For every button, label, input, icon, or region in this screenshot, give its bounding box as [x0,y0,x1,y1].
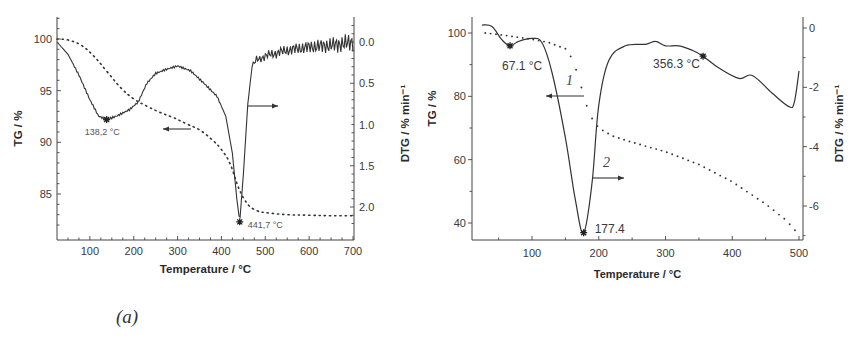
peak-marker [236,218,243,225]
y-tick-label: 40 [454,217,466,229]
y2-tick-label: -2 [809,81,819,93]
annotation-peak-1: 67.1 °C [502,59,542,73]
peak-marker [103,116,110,123]
x-tick-label: 400 [723,247,741,259]
dtg-axis-arrow-head [272,104,278,109]
y2-tick-label: 0.0 [359,36,374,48]
x-tick-label: 100 [81,245,99,257]
x-tick-label: 500 [790,247,808,259]
y2-tick-label: 0.5 [359,77,374,89]
peak-marker [580,229,587,236]
y-tick-label: 85 [40,188,52,200]
y-axis-title: TG / % [12,111,24,147]
y2-tick-label: 1.0 [359,119,374,131]
y-tick-label: 80 [454,90,466,102]
x-axis-title: Temperature / °C [160,263,251,275]
x-axis-title: Temperature / °C [594,268,681,280]
y2-tick-label: 1.5 [359,160,374,172]
dtg-curve [482,25,799,233]
curve-label-1: 1 [566,73,573,88]
y2-tick-label: -4 [809,141,819,153]
curve-label-2: 2 [603,155,610,170]
tg-axis-arrow-head [163,127,169,132]
y2-tick-label: 0 [809,22,815,34]
x-tick-label: 300 [168,245,186,257]
x-tick-label: 400 [212,245,230,257]
chart-a: 1002003004005006007008590951000.00.51.01… [12,17,411,275]
x-tick-label: 300 [656,247,674,259]
y-tick-label: 100 [34,33,52,45]
x-tick-label: 700 [344,245,362,257]
x-tick-label: 600 [300,245,318,257]
figure-canvas: 1002003004005006007008590951000.00.51.01… [0,0,862,346]
y-tick-label: 90 [40,136,52,148]
annotation-peak-3: 356.3 °C [653,57,700,71]
annotation-peak-2: 441,7 °C [248,220,284,230]
x-tick-label: 100 [523,247,541,259]
x-tick-label: 200 [125,245,143,257]
peak-marker [700,53,707,60]
y2-tick-label: -6 [809,200,819,212]
annotation-peak-1: 138,2 °C [85,127,121,137]
y2-axis-title: DTG / % min⁻¹ [399,85,411,163]
y2-axis-title: DTG / % min⁻¹ [833,85,845,163]
y-tick-label: 100 [448,27,466,39]
figure: 1002003004005006007008590951000.00.51.01… [0,0,862,346]
chart-b: 1002003004005004060801000-2-4-6Temperatu… [426,17,845,280]
peak-marker [507,42,514,49]
dtg-axis-arrow-head [618,176,624,181]
annotation-peak-2: 177.4 [595,222,625,236]
tg-axis-arrow-head [546,94,552,99]
caption-a: (a) [116,306,138,328]
y-tick-label: 60 [454,154,466,166]
x-tick-label: 500 [256,245,274,257]
x-tick-label: 200 [590,247,608,259]
y-tick-label: 95 [40,85,52,97]
y2-tick-label: 2.0 [359,201,374,213]
y-axis-title: TG / % [426,91,438,127]
